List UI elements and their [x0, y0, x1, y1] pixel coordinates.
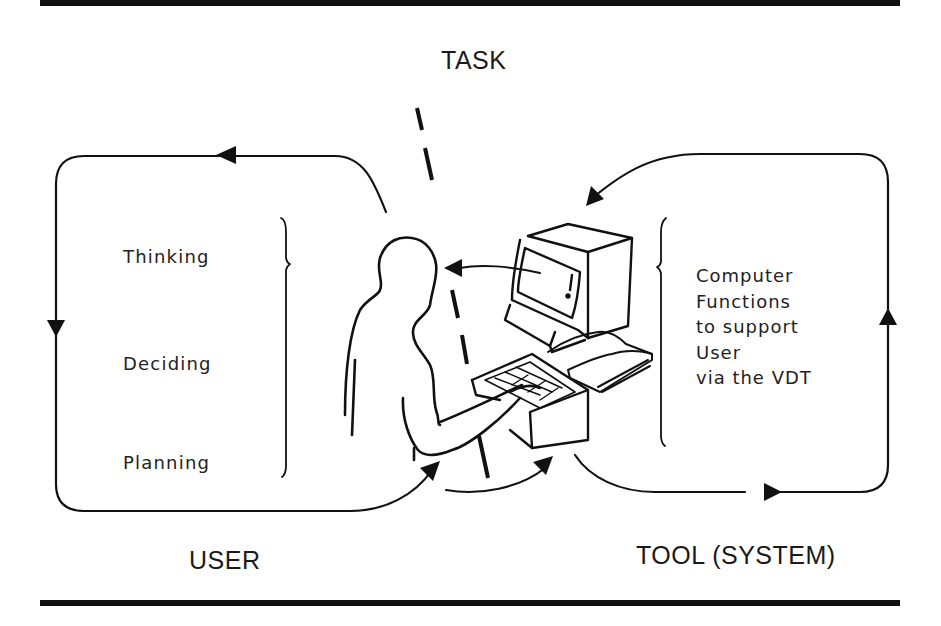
arrow-up-right-icon	[420, 461, 440, 481]
dashed-task-line	[417, 108, 488, 478]
display-arrow	[460, 266, 540, 273]
arrow-up-right-icon	[533, 456, 553, 475]
user-label: USER	[189, 546, 260, 575]
arrow-down-left-icon	[586, 186, 604, 206]
activity-planning: Planning	[123, 452, 210, 473]
arrow-left-icon	[444, 259, 462, 277]
vdt-monitor-icon	[505, 224, 632, 352]
tool-description: Computer Functions to support User via t…	[696, 263, 812, 391]
tool-description-line: via the VDT	[696, 365, 812, 391]
person-silhouette-icon	[345, 238, 522, 460]
user-brace	[281, 218, 290, 477]
tool-description-line: User	[696, 340, 812, 366]
arrow-up-icon	[879, 308, 897, 325]
task-title: TASK	[441, 46, 506, 75]
arrow-right-icon	[764, 483, 782, 501]
activity-deciding: Deciding	[123, 353, 212, 374]
user-loop-arrow	[56, 156, 432, 511]
bottom-rule	[40, 600, 900, 606]
input-arrow	[446, 468, 545, 492]
tool-description-line: Functions	[696, 289, 812, 315]
tool-description-line: to support	[696, 314, 812, 340]
tool-description-line: Computer	[696, 263, 812, 289]
activity-thinking: Thinking	[123, 246, 210, 267]
tool-brace	[657, 218, 666, 446]
arrow-down-icon	[47, 320, 65, 337]
tool-label: TOOL (SYSTEM)	[636, 541, 836, 570]
open-book-icon	[548, 332, 652, 392]
arrow-left-icon	[216, 146, 236, 164]
